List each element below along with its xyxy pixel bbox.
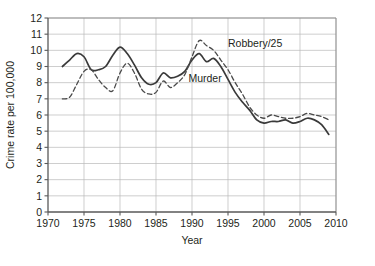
- x-tick-label: 2010: [324, 217, 348, 229]
- y-tick-label: 2: [36, 173, 42, 185]
- chart-canvas: 0123456789101112197019751980198519901995…: [0, 0, 375, 266]
- y-tick-label: 11: [31, 28, 42, 40]
- y-tick-label: 1: [36, 190, 42, 202]
- x-tick-label: 1990: [180, 217, 204, 229]
- y-tick-label: 12: [30, 12, 42, 24]
- y-tick-label: 4: [36, 141, 42, 153]
- y-tick-label: 3: [36, 157, 42, 169]
- y-tick-label: 9: [36, 60, 42, 72]
- x-tick-label: 1980: [108, 217, 132, 229]
- y-tick-label: 8: [36, 76, 42, 88]
- crime-rate-line-chart: 0123456789101112197019751980198519901995…: [0, 0, 375, 266]
- y-tick-label: 0: [36, 206, 42, 218]
- y-tick-label: 10: [30, 44, 42, 56]
- x-axis-title: Year: [181, 234, 203, 246]
- y-tick-label: 6: [36, 109, 42, 121]
- x-tick-label: 1995: [216, 217, 240, 229]
- series-label-murder: Murder: [188, 72, 222, 84]
- y-axis-title: Crime rate per 100,000: [4, 61, 16, 169]
- y-tick-label: 7: [36, 93, 42, 105]
- x-tick-label: 1975: [72, 217, 96, 229]
- series-label-robbery-25: Robbery/25: [228, 37, 282, 49]
- x-tick-label: 2000: [252, 217, 276, 229]
- x-tick-label: 2005: [288, 217, 312, 229]
- y-tick-label: 5: [36, 125, 42, 137]
- x-tick-label: 1985: [144, 217, 168, 229]
- x-tick-label: 1970: [36, 217, 60, 229]
